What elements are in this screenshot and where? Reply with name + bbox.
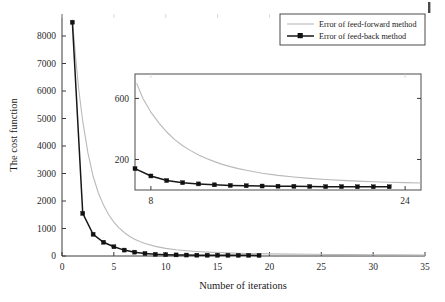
y-tick-label: 7000 — [37, 59, 56, 69]
y-tick-label: 6000 — [37, 86, 56, 96]
data-point-marker — [143, 251, 147, 255]
data-point-marker — [257, 253, 261, 257]
inset-data-point-marker — [260, 184, 264, 188]
data-point-marker — [236, 253, 240, 257]
x-tick-label: 20 — [265, 262, 275, 272]
cost-function-convergence-chart: 010002000300040005000600070008000 051015… — [0, 0, 445, 302]
y-tick-label: 4000 — [37, 141, 56, 151]
inset-data-point-marker — [276, 184, 280, 188]
y-tick-label: 3000 — [37, 169, 56, 179]
data-point-marker — [226, 253, 230, 257]
data-point-marker — [153, 252, 157, 256]
inset-data-point-marker — [212, 183, 216, 187]
inset-data-point-marker — [292, 184, 296, 188]
inset-data-point-marker — [308, 184, 312, 188]
y-tick-label: 1000 — [37, 224, 56, 234]
data-point-marker — [164, 253, 168, 257]
inset-x-tick-label: 24 — [400, 196, 410, 206]
data-point-marker — [91, 232, 95, 236]
y-axis-tick-labels: 010002000300040005000600070008000 — [37, 31, 56, 261]
inset-x-tick-label: 8 — [149, 196, 154, 206]
inset-data-point-marker — [371, 185, 375, 189]
x-tick-label: 25 — [317, 262, 327, 272]
inset-data-point-marker — [244, 184, 248, 188]
legend-marker-feed-back — [298, 33, 303, 38]
data-point-marker — [205, 253, 209, 257]
inset-data-point-marker — [228, 183, 232, 187]
inset-data-point-marker — [324, 185, 328, 189]
data-point-marker — [112, 245, 116, 249]
chart-figure: 010002000300040005000600070008000 051015… — [0, 0, 445, 302]
inset-data-point-marker — [197, 182, 201, 186]
legend-label-feed-back: Error of feed-back method — [319, 32, 406, 41]
x-tick-label: 30 — [368, 262, 378, 272]
page-scan-artifact — [428, 2, 430, 13]
data-point-marker — [81, 211, 85, 215]
inset-data-point-marker — [149, 174, 153, 178]
inset-data-point-marker — [355, 185, 359, 189]
x-tick-label: 5 — [111, 262, 116, 272]
data-point-marker — [122, 248, 126, 252]
inset-data-point-marker — [165, 179, 169, 183]
x-tick-label: 0 — [60, 262, 65, 272]
inset-data-point-marker — [181, 181, 185, 185]
x-tick-label: 35 — [420, 262, 430, 272]
x-tick-label: 10 — [161, 262, 171, 272]
legend: Error of feed-forward method Error of fe… — [280, 14, 425, 45]
y-tick-label: 8000 — [37, 31, 56, 41]
x-axis-title: Number of iterations — [199, 280, 286, 291]
inset-y-tick-label: 200 — [115, 155, 130, 165]
data-point-marker — [133, 250, 137, 254]
inset-plot: 200600 824 — [115, 74, 421, 206]
y-tick-label: 5000 — [37, 114, 56, 124]
data-point-marker — [101, 240, 105, 244]
data-point-marker — [70, 20, 74, 24]
y-tick-label: 2000 — [37, 196, 56, 206]
data-point-marker — [184, 253, 188, 257]
legend-label-feed-forward: Error of feed-forward method — [319, 20, 417, 29]
data-point-marker — [216, 253, 220, 257]
y-axis-title: The cost function — [8, 98, 19, 172]
inset-y-tick-label: 600 — [115, 94, 130, 104]
inset-data-point-marker — [387, 185, 391, 189]
inset-data-point-marker — [133, 167, 137, 171]
data-point-marker — [174, 253, 178, 257]
y-tick-label: 0 — [51, 251, 56, 261]
inset-frame — [135, 74, 421, 190]
data-point-marker — [247, 253, 251, 257]
x-tick-label: 15 — [213, 262, 223, 272]
data-point-marker — [195, 253, 199, 257]
inset-data-point-marker — [340, 185, 344, 189]
